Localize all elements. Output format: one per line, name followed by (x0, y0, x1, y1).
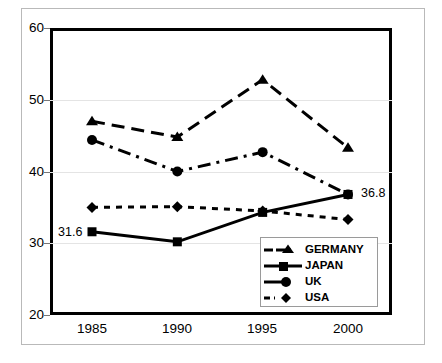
legend-item-usa: USA (261, 290, 377, 306)
x-axis-label-1990: 1990 (147, 322, 207, 336)
y-axis-label-20: 20 (10, 308, 44, 322)
y-axis-label-60: 60 (10, 21, 44, 35)
legend-label-uk: UK (305, 276, 322, 288)
y-tick-40 (44, 172, 50, 173)
legend-label-japan: JAPAN (305, 260, 343, 272)
y-tick-60 (44, 28, 50, 29)
legend-item-germany: GERMANY (261, 242, 377, 258)
y-axis-label-30: 30 (10, 236, 44, 250)
data-label-japan-2000: 36.8 (361, 187, 385, 200)
germany-legend-key (261, 242, 305, 258)
y-axis-label-50: 50 (10, 93, 44, 107)
japan-legend-key (261, 258, 305, 274)
legend-label-germany: GERMANY (305, 244, 364, 256)
data-label-japan-1985: 31.6 (58, 226, 82, 239)
y-axis-label-40: 40 (10, 165, 44, 179)
chart-legend: GERMANY JAPAN UK (260, 237, 378, 307)
x-axis-label-1995: 1995 (232, 322, 292, 336)
chart-figure: 60 50 40 30 20 1985 1990 1995 2000 31.6 … (0, 0, 442, 363)
legend-item-japan: JAPAN (261, 258, 377, 274)
legend-item-uk: UK (261, 274, 377, 290)
uk-legend-key (261, 274, 305, 290)
x-axis-label-1985: 1985 (62, 322, 122, 336)
gridline-50 (50, 100, 392, 101)
x-axis-label-2000: 2000 (318, 322, 378, 336)
y-tick-20 (44, 315, 50, 316)
gridline-40 (50, 172, 392, 173)
usa-legend-key (261, 290, 305, 306)
legend-label-usa: USA (305, 292, 329, 304)
y-tick-30 (44, 243, 50, 244)
y-tick-50 (44, 100, 50, 101)
